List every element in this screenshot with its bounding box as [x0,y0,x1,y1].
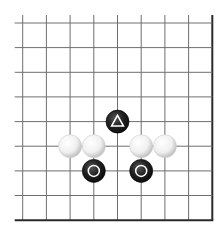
black-stone [130,159,153,182]
black-stone [82,159,105,182]
white-stone [82,135,105,158]
white-stone [130,135,153,158]
black-stone [106,110,129,133]
go-board [0,0,224,236]
white-stone [59,135,82,158]
white-stone [153,135,176,158]
